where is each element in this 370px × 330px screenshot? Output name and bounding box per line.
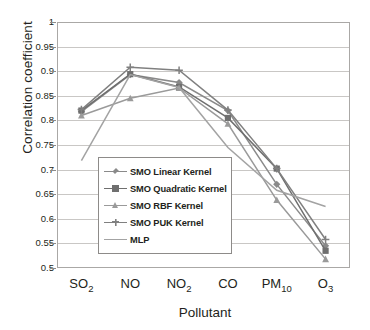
- legend: SMO Linear KernelSMO Quadratic KernelSMO…: [98, 157, 232, 254]
- gridline: [58, 120, 349, 121]
- legend-item: MLP: [104, 231, 227, 248]
- y-axis-tick-mark: [50, 96, 56, 97]
- y-axis-tick-label: 0.85: [14, 91, 54, 101]
- y-axis-tick-mark: [50, 120, 56, 121]
- legend-item: SMO RBF Kernel: [104, 197, 227, 214]
- y-axis-tick-label: 0.9: [14, 66, 54, 76]
- gridline: [58, 96, 349, 97]
- y-axis-tick-mark: [50, 243, 56, 244]
- x-axis-title: Pollutant: [50, 305, 360, 320]
- y-axis-tick-mark: [50, 22, 56, 23]
- y-axis-tick-label: 0.65: [14, 189, 54, 199]
- legend-item-label: SMO RBF Kernel: [130, 201, 203, 211]
- y-axis-tick-label: 0.55: [14, 238, 54, 248]
- y-axis-tick-label: 0.75: [14, 140, 54, 150]
- y-axis-tick-label: 0.8: [14, 115, 54, 125]
- legend-marker-square-icon: [104, 183, 127, 195]
- y-axis-tick-mark: [50, 47, 56, 48]
- legend-item: SMO Quadratic Kernel: [104, 180, 227, 197]
- y-axis-tick-label: 0.6: [14, 214, 54, 224]
- chart-container: Correlation coefficient 10.950.90.850.80…: [0, 0, 370, 330]
- y-axis-tick-mark: [50, 170, 56, 171]
- gridline: [58, 145, 349, 146]
- legend-marker-cross-icon: [104, 217, 127, 229]
- y-axis-tick-mark: [50, 268, 56, 269]
- y-axis-tick-mark: [50, 194, 56, 195]
- legend-marker-line-icon: [104, 234, 127, 246]
- y-axis-tick-label: 0.7: [14, 165, 54, 175]
- y-axis-tick-mark: [50, 71, 56, 72]
- legend-item-label: SMO Quadratic Kernel: [130, 184, 227, 194]
- legend-item: SMO PUK Kernel: [104, 214, 227, 231]
- gridline: [58, 47, 349, 48]
- legend-marker-triangle-icon: [104, 200, 127, 212]
- x-axis-tick-label: O3: [294, 276, 358, 294]
- y-axis-tick-label: 0.5: [14, 263, 54, 273]
- y-axis-tick-label: 0.95: [14, 42, 54, 52]
- legend-item: SMO Linear Kernel: [104, 163, 227, 180]
- legend-item-label: SMO Linear Kernel: [130, 167, 211, 177]
- legend-item-label: SMO PUK Kernel: [130, 218, 204, 228]
- legend-item-label: MLP: [130, 235, 149, 245]
- y-axis-tick-mark: [50, 145, 56, 146]
- y-axis-tick-label: 1: [14, 17, 54, 27]
- gridline: [58, 71, 349, 72]
- legend-marker-diamond-icon: [104, 166, 127, 178]
- y-axis-tick-mark: [50, 219, 56, 220]
